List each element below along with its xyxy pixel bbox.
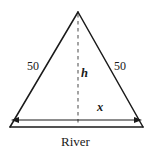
triangle-left-leg	[10, 12, 78, 127]
label-side-right: 50	[114, 60, 126, 72]
label-side-left: 50	[27, 60, 39, 72]
base-measure-arrow	[11, 117, 142, 123]
figure-canvas	[0, 0, 151, 156]
label-river-caption: River	[0, 135, 151, 148]
triangle-river-figure: 50 50 h x River	[0, 0, 151, 156]
label-altitude-h: h	[81, 67, 88, 80]
label-half-base-x: x	[97, 101, 103, 114]
